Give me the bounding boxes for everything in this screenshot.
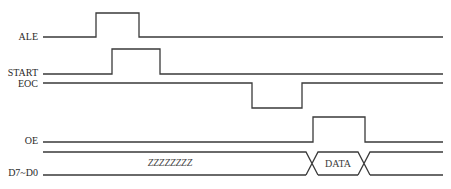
label-eoc: EOC	[18, 78, 38, 89]
waveforms	[43, 13, 443, 175]
bus-segment-data: DATA	[325, 158, 352, 169]
bus-segment-high-impedance: ZZZZZZZZ	[148, 157, 193, 168]
waveform-ale	[43, 13, 443, 37]
label-oe: OE	[25, 135, 38, 146]
label-ale: ALE	[19, 31, 38, 42]
label-start: START	[8, 67, 38, 78]
waveform-eoc	[43, 83, 443, 108]
bus-labels: ZZZZZZZZ DATA	[148, 157, 352, 169]
signal-labels: ALE START EOC OE D7~D0	[8, 31, 39, 178]
waveform-data-bus-top	[43, 152, 443, 175]
waveform-oe	[43, 117, 443, 142]
label-data-bus: D7~D0	[8, 167, 38, 178]
waveform-start	[43, 49, 443, 74]
timing-diagram: ALE START EOC OE D7~D0 ZZZZZZZZ DATA	[0, 0, 451, 189]
